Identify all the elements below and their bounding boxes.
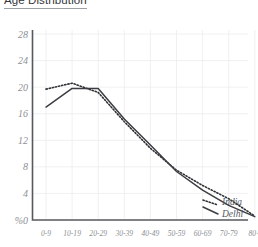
y-axis-tick-label: 16 xyxy=(18,108,28,119)
x-axis-tick-label: 50-59 xyxy=(168,229,186,238)
x-axis-tick-label: 70-79 xyxy=(220,229,238,238)
legend: India Delhi xyxy=(203,197,243,219)
legend-swatch-delhi-icon xyxy=(203,207,218,214)
x-axis-tick-label: 40-49 xyxy=(142,229,160,238)
y-axis-tick-label: 12 xyxy=(18,135,28,146)
y-axis-tick-label: 4 xyxy=(23,188,28,199)
x-axis-tick-label: 10-19 xyxy=(63,229,81,238)
x-axis-tick-label: 30-39 xyxy=(114,229,133,238)
x-axis-tick-label: 20-29 xyxy=(89,229,107,238)
y-axis-tick-label: 8 xyxy=(23,161,28,172)
y-axis-tick-label: 20 xyxy=(18,82,28,93)
line-chart-plot: 282420161284%0 0-910-1920-2930-3940-4950… xyxy=(0,0,258,247)
x-axis-tick-label: 60-69 xyxy=(194,229,212,238)
age-distribution-chart-card: Age Distribution 282420161284%0 0-910-19… xyxy=(0,0,258,247)
x-axis-tick-labels: 0-910-1920-2930-3940-4950-5960-6970-7980… xyxy=(41,229,258,238)
legend-swatch-india-icon xyxy=(203,200,218,205)
legend-label-delhi: Delhi xyxy=(221,209,243,219)
y-axis-tick-labels: 282420161284%0 xyxy=(15,29,28,226)
y-axis-tick-label: %0 xyxy=(15,215,28,226)
x-axis-tick-label: 0-9 xyxy=(41,229,51,238)
y-axis-tick-label: 28 xyxy=(18,29,28,40)
legend-label-india: India xyxy=(221,197,242,207)
gridlines xyxy=(33,30,255,220)
x-axis-tick-label: 80+ xyxy=(248,229,258,238)
y-axis-tick-label: 24 xyxy=(18,55,28,66)
